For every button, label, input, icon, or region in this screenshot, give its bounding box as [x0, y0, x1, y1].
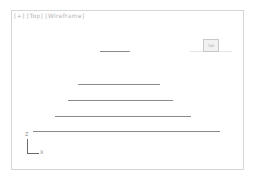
axis-tripod: Z X [25, 135, 49, 157]
viewport-point-of-view-top[interactable]: [Top] [27, 12, 43, 19]
z-axis-icon [27, 139, 28, 153]
wire-line-5[interactable] [33, 131, 220, 132]
x-axis-icon [27, 153, 39, 154]
z-axis-label: Z [25, 131, 28, 137]
viewcube-face-label: TOP [208, 44, 214, 48]
wire-line-1[interactable] [100, 51, 130, 52]
viewport-menu-plus[interactable]: [+] [14, 12, 25, 19]
viewport-label: [+] [Top] [Wireframe] [14, 12, 85, 19]
wire-line-4[interactable] [55, 116, 191, 117]
wire-line-2[interactable] [78, 84, 160, 85]
wire-line-3[interactable] [68, 100, 173, 101]
viewcube[interactable]: TOP [203, 39, 219, 52]
x-axis-label: X [40, 149, 43, 155]
viewport-shading-wireframe[interactable]: [Wireframe] [45, 12, 84, 19]
